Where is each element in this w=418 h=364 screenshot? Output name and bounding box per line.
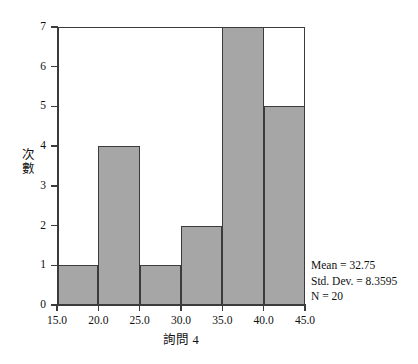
y-axis-tick (51, 106, 58, 108)
y-axis-tick (51, 225, 58, 227)
x-axis-tick (304, 305, 306, 311)
y-axis-tick-label: 2 (26, 220, 46, 232)
histogram-bar (98, 146, 139, 305)
x-axis-tick-label: 30.0 (160, 314, 202, 326)
x-axis-tick-label: 25.0 (119, 314, 161, 326)
y-axis-title-char: 次 (20, 148, 36, 162)
x-axis-tick (263, 305, 265, 311)
y-axis-tick-label: 7 (26, 21, 46, 33)
sample-size-label: N = 20 (311, 289, 397, 305)
histogram-chart: 01234567 15.020.025.030.035.040.045.0 次數… (0, 0, 418, 364)
x-axis-tick (98, 305, 100, 311)
y-axis-tick-label: 0 (26, 299, 46, 311)
y-axis-tick (51, 185, 58, 187)
x-axis-tick (180, 305, 182, 311)
histogram-bar (222, 27, 263, 305)
x-axis-tick (139, 305, 141, 311)
statistics-annotation: Mean = 32.75 Std. Dev. = 8.3595 N = 20 (311, 258, 397, 305)
x-axis-tick-label: 45.0 (284, 314, 326, 326)
x-axis-tick-label: 15.0 (36, 314, 78, 326)
chart-title (0, 0, 418, 1)
x-axis-tick-label: 40.0 (243, 314, 285, 326)
y-axis-tick (51, 26, 58, 28)
y-axis-tick (51, 66, 58, 68)
std-dev-label: Std. Dev. = 8.3595 (311, 274, 397, 290)
histogram-bar (57, 265, 98, 305)
mean-label: Mean = 32.75 (311, 258, 397, 274)
y-axis-tick-label: 5 (26, 100, 46, 112)
y-axis-tick-label: 3 (26, 180, 46, 192)
histogram-bar (264, 106, 305, 305)
x-axis-tick-label: 20.0 (77, 314, 119, 326)
x-axis-tick (56, 305, 58, 311)
x-axis-tick-label: 35.0 (201, 314, 243, 326)
y-axis-tick (51, 145, 58, 147)
y-axis-tick-label: 1 (26, 259, 46, 271)
histogram-bar (181, 226, 222, 305)
y-axis-title: 次數 (20, 148, 36, 176)
y-axis-tick-label: 6 (26, 61, 46, 73)
y-axis-tick (51, 265, 58, 267)
x-axis-tick (222, 305, 224, 311)
bars-container (57, 27, 305, 305)
histogram-bar (140, 265, 181, 305)
y-axis-title-char: 數 (20, 162, 36, 176)
x-axis-title: 詢問 4 (57, 333, 305, 347)
